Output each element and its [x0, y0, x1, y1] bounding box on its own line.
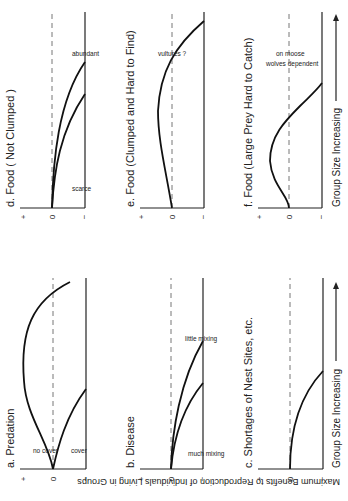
panel-b-title: b. Disease [124, 416, 136, 468]
note-wolves-1: wolves dependent [265, 60, 319, 68]
tick-zero: 0 [285, 214, 294, 219]
panel-c: c. Shortages of Nest Sites, etc. + 0 − G… [242, 278, 342, 481]
tick-minus: − [198, 476, 207, 481]
panel-e: e. Food (Clumped and Hard to Find) + 0 −… [124, 12, 208, 219]
curve-large-prey [270, 83, 322, 208]
note-scarce: scarce [72, 185, 92, 192]
note-wolves-2: on moose [276, 50, 305, 57]
tick-minus: − [317, 214, 326, 219]
curve-no-cover [23, 282, 70, 469]
figure-canvas: Maximum Benefits to Reproduction of Indi… [0, 0, 348, 501]
x-axis-label-right: Group Size Increasing [331, 108, 342, 207]
tick-plus: + [137, 476, 146, 481]
note-vultures: vultures ? [158, 50, 187, 57]
panel-a-title: a. Predation [4, 409, 16, 468]
x-axis-label-left: Group Size Increasing [331, 369, 342, 468]
panel-f: f. Food (Large Prey Hard to Catch) + 0 −… [242, 12, 342, 219]
tick-zero: 0 [167, 476, 176, 481]
note-cover: cover [71, 447, 88, 454]
tick-plus: + [19, 476, 28, 481]
note-much-mixing: much mixing [188, 450, 225, 458]
panel-c-title: c. Shortages of Nest Sites, etc. [242, 317, 254, 468]
arrow-head-icon [333, 282, 339, 289]
panel-a: a. Predation + 0 − no cover cover [4, 278, 90, 481]
tick-zero: 0 [286, 476, 295, 481]
y-axis-label: Maximum Benefits to Reproduction of Indi… [77, 477, 340, 487]
panel-d: d. Food ( Not Clumped ) + 0 − scarce abu… [4, 12, 99, 219]
note-little-mixing: little mixing [185, 335, 218, 343]
tick-plus: + [255, 476, 264, 481]
tick-minus: − [81, 476, 90, 481]
curve-nest-sites [290, 371, 323, 469]
tick-zero: 0 [49, 476, 58, 481]
panel-f-title: f. Food (Large Prey Hard to Catch) [242, 38, 254, 207]
panel-b: b. Disease + 0 − much mixing little mixi… [124, 278, 225, 481]
tick-minus: − [199, 214, 208, 219]
curve-cover [53, 389, 86, 469]
note-abundant: abundant [72, 50, 99, 57]
panel-e-title: e. Food (Clumped and Hard to Find) [124, 30, 136, 207]
tick-zero: 0 [48, 214, 57, 219]
tick-plus: + [255, 214, 264, 219]
panel-d-title: d. Food ( Not Clumped ) [4, 89, 16, 207]
tick-minus: − [80, 214, 89, 219]
tick-minus: − [318, 476, 327, 481]
tick-plus: + [19, 214, 28, 219]
tick-zero: 0 [168, 214, 177, 219]
arrow-head-icon [333, 14, 339, 21]
tick-plus: + [137, 214, 146, 219]
note-no-cover: no cover [33, 447, 59, 454]
